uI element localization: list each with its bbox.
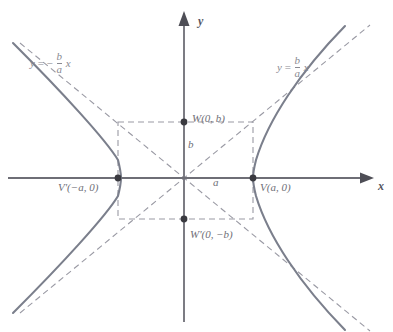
label-covertex-top: W(0, b) bbox=[192, 112, 225, 124]
x-axis-label: x bbox=[378, 179, 384, 194]
central-rectangle bbox=[118, 122, 253, 219]
y-axis-label: y bbox=[198, 14, 203, 29]
label-covertex-bottom: W'(0, −b) bbox=[190, 228, 233, 240]
asymptote-left-fraction: b a bbox=[57, 51, 63, 75]
label-semi-major-a: a bbox=[213, 176, 219, 188]
asymptote-right-denominator: a bbox=[295, 67, 301, 80]
asymptote-left-equation: y = − b a x bbox=[30, 52, 71, 76]
label-vertex-left: V'(−a, 0) bbox=[58, 181, 98, 193]
asymptote-right-equals: = bbox=[285, 61, 291, 73]
asymptote-left-lhs: y bbox=[30, 57, 35, 69]
x-axis-arrow-icon bbox=[360, 173, 374, 184]
asymptote-right-lhs: y bbox=[277, 61, 282, 73]
asymptote-left-equals: = bbox=[38, 57, 44, 69]
asymptote-positive-slope bbox=[20, 25, 370, 313]
y-axis-arrow-icon bbox=[179, 11, 190, 26]
point-vertex-left bbox=[115, 175, 122, 182]
point-vertex-right bbox=[250, 175, 257, 182]
asymptote-left-numerator: b bbox=[57, 51, 63, 63]
asymptote-left-denominator: a bbox=[57, 63, 63, 76]
point-covertex-top bbox=[181, 119, 188, 126]
point-covertex-bottom bbox=[181, 216, 188, 223]
asymptote-left-variable: x bbox=[66, 57, 71, 69]
asymptote-right-equation: y = b a x bbox=[277, 56, 309, 80]
label-vertex-right: V(a, 0) bbox=[260, 181, 291, 193]
asymptote-right-variable: x bbox=[304, 61, 309, 73]
label-semi-minor-b: b bbox=[188, 138, 194, 150]
asymptote-left-sign: − bbox=[47, 57, 53, 69]
asymptote-right-numerator: b bbox=[295, 55, 301, 67]
asymptote-right-fraction: b a bbox=[295, 55, 301, 79]
